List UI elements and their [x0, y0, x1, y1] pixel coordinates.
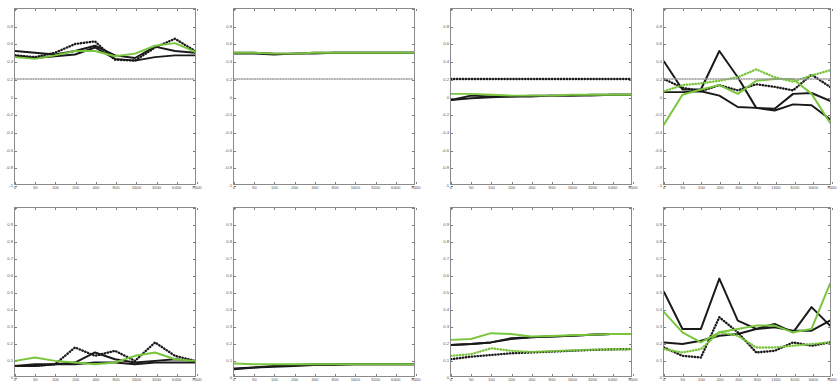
y-axis-tick-label: 0.2 [443, 342, 449, 346]
chart-panel-r2c4: 0.90.80.70.60.50.40.30.20.10050100200400… [663, 207, 831, 377]
y-axis-tick-label: 0.8 [226, 25, 232, 29]
y-axis-tick-label: -0.4 [655, 131, 662, 135]
y-axis-tick-label: 0.5 [7, 291, 13, 295]
y-axis-tick-label: 0.3 [443, 325, 449, 329]
x-axis-tick-label: 800 [549, 186, 556, 190]
x-axis-tick-label: 6400 [809, 378, 818, 382]
y-axis-tick-label: 0.7 [656, 257, 662, 261]
y-axis-tick-label: 0.4 [443, 308, 449, 312]
x-tick-mark [197, 182, 198, 184]
x-axis-tick-label: 9600 [827, 378, 836, 382]
y-axis-tick-label: -1 [658, 184, 662, 188]
x-axis-tick-label: 3200 [152, 378, 161, 382]
plot-area: 0.80.60.40.20-0.2-0.4-0.6-0.8-1050100200… [233, 8, 415, 185]
y-axis-tick-label: 0.6 [226, 42, 232, 46]
y-axis-tick-label: 0.4 [443, 60, 449, 64]
x-axis-tick-label: 1600 [132, 186, 141, 190]
x-axis-tick-label: 50 [252, 378, 257, 382]
y-axis-tick-label: -0.6 [655, 148, 662, 152]
x-axis-tick-label: 200 [291, 378, 298, 382]
series-line-black-solid-a [664, 279, 830, 333]
y-axis-tick-label: -1 [445, 184, 449, 188]
x-axis-tick-label: 9600 [628, 186, 637, 190]
y-axis-tick-label: 0.7 [226, 257, 232, 261]
series-layer [451, 208, 631, 376]
x-tick-mark-top [416, 208, 417, 210]
y-axis-tick-label: 0.2 [226, 342, 232, 346]
x-axis-tick-label: 800 [549, 378, 556, 382]
x-tick-mark-top [197, 9, 198, 11]
x-axis-tick-label: 0 [233, 186, 235, 190]
y-axis-tick-label: 0.8 [7, 25, 13, 29]
y-axis-tick-label: 0.9 [226, 223, 232, 227]
chart-panel-r1c4: 0.80.60.40.20-0.2-0.4-0.6-0.8-1050100200… [663, 8, 831, 185]
x-tick-mark [832, 182, 833, 184]
x-axis-tick-label: 100 [698, 186, 705, 190]
y-axis-tick-label: -0.4 [225, 131, 232, 135]
series-layer [664, 208, 830, 376]
x-axis-tick-label: 3200 [152, 186, 161, 190]
y-axis-tick-label: 0.4 [7, 60, 13, 64]
plot-area: 0.80.60.40.20-0.2-0.4-0.6-0.8-1050100200… [14, 8, 196, 185]
x-tick-mark [197, 374, 198, 376]
x-axis-tick-label: 50 [469, 186, 474, 190]
x-tick-mark [633, 374, 634, 376]
y-axis-tick-label: 0.3 [226, 325, 232, 329]
plot-area: 0.90.80.70.60.50.40.30.20.10050100200400… [450, 207, 632, 377]
x-axis-tick-label: 800 [113, 378, 120, 382]
x-axis-tick-label: 6400 [172, 378, 181, 382]
y-axis-tick-label: 0.1 [443, 359, 449, 363]
y-axis-tick-label: -0.2 [6, 113, 13, 117]
x-axis-tick-label: 200 [291, 186, 298, 190]
y-axis-tick-label: 0.9 [7, 223, 13, 227]
x-axis-tick-label: 50 [680, 186, 685, 190]
x-axis-tick-label: 9600 [192, 378, 201, 382]
y-axis-tick-label: 0 [230, 95, 232, 99]
x-axis-tick-label: 400 [311, 378, 318, 382]
x-axis-tick-label: 400 [92, 186, 99, 190]
x-axis-tick-label: 100 [271, 186, 278, 190]
y-axis-tick-label: 0.3 [656, 325, 662, 329]
y-axis-tick-label: -1 [228, 184, 232, 188]
x-tick-mark [416, 374, 417, 376]
y-axis-tick-label: 0 [660, 376, 662, 380]
series-line-black-solid-b [664, 91, 830, 119]
x-axis-tick-label: 800 [332, 186, 339, 190]
plot-area: 0.90.80.70.60.50.40.30.20.10050100200400… [233, 207, 415, 377]
y-axis-tick-label: -0.2 [225, 113, 232, 117]
series-line-green-solid [234, 53, 414, 54]
x-axis-tick-label: 400 [311, 186, 318, 190]
x-axis-tick-label: 0 [663, 186, 665, 190]
x-axis-tick-label: 200 [72, 378, 79, 382]
y-axis-tick-label: 0.6 [443, 274, 449, 278]
plot-area: 0.90.80.70.60.50.40.30.20.10050100200400… [663, 207, 831, 377]
series-layer [15, 9, 195, 184]
x-axis-tick-label: 0 [450, 378, 452, 382]
y-axis-tick-label: 0.2 [226, 78, 232, 82]
x-axis-tick-label: 1600 [568, 378, 577, 382]
x-axis-tick-label: 100 [52, 378, 59, 382]
y-axis-tick-label: 0 [660, 95, 662, 99]
plot-area: 0.80.60.40.20-0.2-0.4-0.6-0.8-1050100200… [450, 8, 632, 185]
y-axis-tick-label: 0.1 [656, 359, 662, 363]
x-axis-tick-label: 100 [488, 378, 495, 382]
series-layer [234, 9, 414, 184]
x-axis-tick-label: 0 [14, 378, 16, 382]
chart-panel-r2c1: 0.90.80.70.60.50.40.30.20.10050100200400… [14, 207, 196, 377]
x-tick-mark-top [832, 9, 833, 11]
y-axis-tick-label: 0 [447, 95, 449, 99]
y-axis-tick-label: 0.8 [656, 25, 662, 29]
y-axis-tick-label: 0.7 [443, 257, 449, 261]
x-axis-tick-label: 200 [508, 186, 515, 190]
x-axis-tick-label: 1600 [351, 186, 360, 190]
chart-panel-r2c3: 0.90.80.70.60.50.40.30.20.10050100200400… [450, 207, 632, 377]
y-axis-tick-label: 0.7 [7, 257, 13, 261]
y-axis-tick-label: -0.2 [442, 113, 449, 117]
series-layer [451, 9, 631, 184]
y-axis-tick-label: 0.8 [443, 240, 449, 244]
y-axis-tick-label: -0.4 [442, 131, 449, 135]
y-axis-tick-label: -0.2 [655, 113, 662, 117]
x-axis-tick-label: 50 [33, 186, 38, 190]
y-axis-tick-label: 0.4 [226, 308, 232, 312]
y-axis-tick-label: 0.2 [7, 342, 13, 346]
